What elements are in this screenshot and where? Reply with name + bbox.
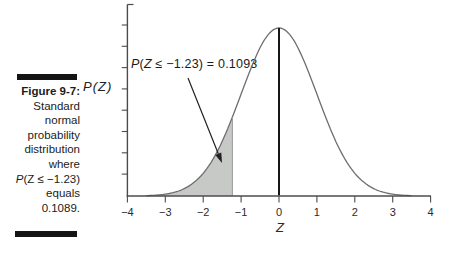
axis-labels-layer: −4−3−2−101234Z [121,206,434,236]
figure-page: Figure 9-7: Standard normal probability … [0,0,451,260]
x-tick-label: 0 [276,206,282,218]
normal-distribution-chart: −4−3−2−101234Z [0,0,451,260]
annotation-arrow-line [188,78,218,154]
x-tick-label: −1 [235,206,248,218]
x-tick-label: 3 [390,206,396,218]
annotation-arrow [188,78,222,163]
chart-layer [122,5,431,203]
x-tick-label: −4 [121,206,134,218]
x-tick-label: −2 [197,206,210,218]
x-tick-label: 2 [352,206,358,218]
x-tick-label: −3 [159,206,172,218]
x-tick-label: 1 [314,206,320,218]
x-axis-title: Z [275,220,285,235]
x-tick-label: 4 [428,206,434,218]
